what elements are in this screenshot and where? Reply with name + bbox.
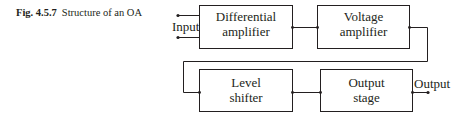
output-terminal (426, 91, 429, 94)
output-stage-label: Output stage (320, 75, 413, 105)
voltage-amplifier-label: Voltage amplifier (317, 9, 410, 39)
input-terminal-lower (176, 36, 179, 39)
output-label: Output (414, 76, 450, 91)
input-terminal-upper (176, 14, 179, 17)
differential-amplifier-label: Differential amplifier (199, 9, 293, 39)
level-shifter-label: Level shifter (199, 75, 293, 105)
input-label: Input (172, 19, 199, 34)
